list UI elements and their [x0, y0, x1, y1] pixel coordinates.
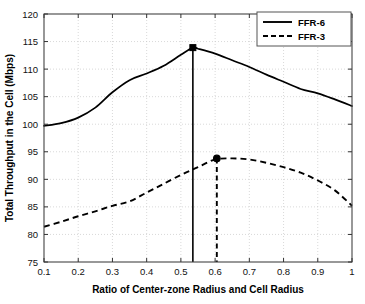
legend-label-ffr3: FFR-3 [298, 31, 325, 42]
x-tick-label: 0.7 [243, 266, 256, 277]
y-tick-label: 85 [27, 201, 38, 212]
y-tick-label: 115 [23, 36, 38, 47]
y-axis-title: Total Throughput in the Cell (Mbps) [4, 54, 15, 222]
y-tick-label: 90 [27, 174, 38, 185]
x-axis-tick-labels: 0.10.20.30.40.50.60.70.80.91 [37, 266, 354, 277]
x-tick-label: 0.6 [209, 266, 222, 277]
x-tick-label: 0.4 [140, 266, 153, 277]
legend: FFR-6 FFR-3 [257, 12, 351, 46]
peak-marker-ffr6-square [190, 45, 196, 51]
legend-label-ffr6: FFR-6 [298, 17, 325, 28]
y-tick-label: 105 [22, 91, 38, 102]
peak-marker-ffr3-circle [214, 155, 220, 161]
x-tick-label: 0.2 [72, 266, 85, 277]
y-tick-label: 95 [27, 146, 38, 157]
y-axis-tick-labels: 7580859095100105110115120 [22, 9, 38, 268]
y-tick-label: 75 [27, 257, 38, 268]
plot-background [44, 14, 352, 262]
x-tick-label: 0.5 [174, 266, 187, 277]
y-tick-label: 110 [23, 64, 38, 75]
x-tick-label: 0.3 [106, 266, 119, 277]
x-tick-label: 0.8 [277, 266, 290, 277]
plot-svg: 0.10.20.30.40.50.60.70.80.91 75808590951… [0, 0, 365, 304]
x-tick-label: 0.1 [37, 266, 50, 277]
x-tick-label: 0.9 [311, 266, 324, 277]
y-tick-label: 80 [27, 229, 38, 240]
y-tick-label: 120 [22, 9, 38, 20]
x-tick-label: 1 [349, 266, 354, 277]
y-tick-label: 100 [22, 119, 38, 130]
x-axis-title: Ratio of Center-zone Radius and Cell Rad… [92, 284, 304, 295]
chart-figure: 0.10.20.30.40.50.60.70.80.91 75808590951… [0, 0, 365, 304]
